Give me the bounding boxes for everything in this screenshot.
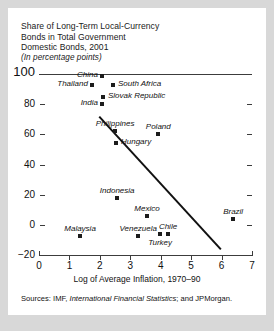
- y-tick-label-80: 80: [9, 99, 35, 109]
- y-tick-left-0: [40, 225, 45, 226]
- data-label-indonesia: Indonesia: [100, 187, 135, 195]
- sources-suffix: ; and JPMorgan.: [176, 294, 232, 303]
- data-label-philippines: Philippines: [96, 120, 135, 128]
- data-point-poland[interactable]: [156, 132, 160, 136]
- y-tick-left-80: [40, 104, 45, 105]
- axis-cap-right: [252, 251, 253, 256]
- data-label-turkey: Turkey: [148, 239, 172, 247]
- x-tick-label-5: 5: [183, 261, 199, 271]
- data-label-brazil: Brazil: [223, 208, 243, 216]
- data-point-south-africa[interactable]: [111, 83, 115, 87]
- sources-italic: International Financial Statistics: [70, 294, 177, 303]
- y-tick-label-−20: −20: [9, 250, 35, 260]
- data-label-malaysia: Malaysia: [64, 225, 96, 233]
- data-point-turkey[interactable]: [158, 232, 162, 236]
- data-point-hungary[interactable]: [114, 141, 118, 145]
- y-tick-right-60: [247, 134, 252, 135]
- y-tick-left-60: [40, 134, 45, 135]
- y-tick-right-80: [247, 104, 252, 105]
- x-tick-label-2: 2: [92, 261, 108, 271]
- y-tick-label-60: 60: [9, 129, 35, 139]
- x-tick-label-1: 1: [61, 261, 77, 271]
- y-tick-label-20: 20: [9, 190, 35, 200]
- data-point-thailand[interactable]: [90, 83, 94, 87]
- x-tick-label-4: 4: [153, 261, 169, 271]
- data-label-poland: Poland: [146, 123, 171, 131]
- data-label-chile: Chile: [159, 223, 177, 231]
- data-label-india: India: [81, 99, 98, 107]
- y-tick-right-20: [247, 195, 252, 196]
- data-label-mexico: Mexico: [134, 205, 159, 213]
- data-label-thailand: Thailand: [57, 80, 88, 88]
- data-point-brazil[interactable]: [231, 217, 235, 221]
- data-point-malaysia[interactable]: [78, 234, 82, 238]
- data-point-indonesia[interactable]: [115, 196, 119, 200]
- y-tick-label-40: 40: [9, 160, 35, 170]
- x-tick-label-3: 3: [122, 261, 138, 271]
- x-axis-label: Log of Average Inflation, 1970–90: [8, 274, 266, 284]
- data-label-venezuela: Venezuela: [119, 225, 157, 233]
- y-tick-label-0: 0: [9, 220, 35, 230]
- sources-note: Sources: IMF, International Financial St…: [21, 294, 232, 303]
- data-point-china[interactable]: [100, 74, 104, 78]
- y-tick-label-100: 100: [9, 67, 35, 77]
- data-point-slovak-republic[interactable]: [101, 95, 105, 99]
- scatter-plot: 01234567100806040200−20ChinaSouth Africa…: [8, 8, 266, 315]
- x-tick-label-7: 7: [244, 261, 260, 271]
- axis-cap-left: [39, 251, 40, 256]
- data-label-south-africa: South Africa: [118, 80, 161, 88]
- data-point-india[interactable]: [100, 102, 104, 106]
- y-tick-right-40: [247, 165, 252, 166]
- data-label-slovak-republic: Slovak Republic: [108, 92, 165, 100]
- data-point-philippines[interactable]: [113, 129, 117, 133]
- data-label-china: China: [77, 71, 98, 79]
- data-label-hungary: Hungary: [121, 138, 151, 146]
- data-point-venezuela[interactable]: [136, 234, 140, 238]
- y-tick-left-40: [40, 165, 45, 166]
- y-tick-left-20: [40, 195, 45, 196]
- y-tick-right-0: [247, 225, 252, 226]
- x-tick-label-6: 6: [214, 261, 230, 271]
- sources-prefix: Sources: IMF,: [21, 294, 70, 303]
- data-point-chile[interactable]: [166, 232, 170, 236]
- figure-panel: Share of Long-Term Local-Currency Bonds …: [8, 8, 266, 315]
- x-tick-label-0: 0: [31, 261, 47, 271]
- data-point-mexico[interactable]: [145, 214, 149, 218]
- axis-rule-top: [39, 74, 252, 75]
